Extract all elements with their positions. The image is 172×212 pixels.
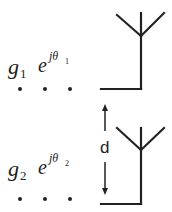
phase-index: 1 <box>65 57 69 66</box>
element-2-dots <box>18 197 72 201</box>
phase-base: e <box>38 156 47 178</box>
gain-index: 1 <box>20 66 27 81</box>
antenna-2-icon <box>101 128 164 204</box>
gain-index: 2 <box>20 168 27 183</box>
phase-base: e <box>38 54 47 76</box>
phase-index: 2 <box>65 159 69 168</box>
antenna-array-diagram: g 1 e jθ 1 d g 2 e jθ 2 <box>0 0 172 212</box>
gain-symbol: g <box>8 54 19 79</box>
element-2-weight: g 2 e jθ 2 <box>8 151 69 183</box>
phase-exponent: jθ <box>47 151 58 165</box>
spacing-label: d <box>100 138 109 157</box>
element-1-dots <box>18 87 72 91</box>
phase-exponent: jθ <box>47 49 58 63</box>
gain-symbol: g <box>8 156 19 181</box>
element-1-weight: g 1 e jθ 1 <box>8 49 69 81</box>
antenna-1-icon <box>101 13 164 89</box>
